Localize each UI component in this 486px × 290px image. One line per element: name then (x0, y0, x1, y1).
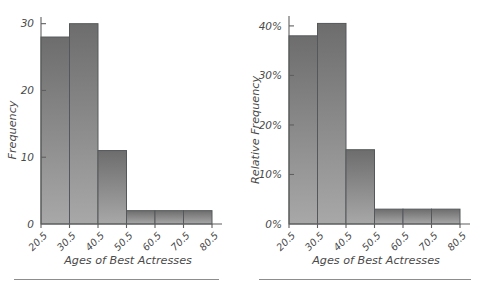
y-tick-label: 30 (21, 17, 35, 29)
y-tick-label: 10 (21, 151, 35, 163)
x-tick-label: 40.5 (331, 230, 354, 253)
bar-group (41, 24, 212, 224)
frequency-histogram-panel: 0102030 20.530.540.550.560.570.580.5 Fre… (0, 0, 243, 290)
y-tick-label: 0 (27, 218, 34, 230)
histogram-bar (184, 211, 213, 224)
x-tick-label: 60.5 (140, 230, 163, 253)
histogram-bar (375, 209, 404, 224)
footer-rule-left (14, 279, 219, 280)
frequency-histogram-plot: 0102030 20.530.540.550.560.570.580.5 Fre… (0, 0, 243, 275)
y-tick-label: 30% (259, 69, 282, 81)
x-tick-label: 40.5 (83, 230, 106, 253)
histogram-bar (318, 23, 347, 224)
histogram-bar (289, 36, 318, 224)
histogram-bar (98, 151, 127, 224)
y-tick-label: 20 (21, 84, 35, 96)
y-tick-label: 10% (259, 168, 282, 180)
x-tick-label-group: 20.530.540.550.560.570.580.5 (274, 230, 468, 253)
x-tick-label: 30.5 (55, 230, 78, 253)
x-tick-label: 60.5 (388, 230, 411, 253)
x-tick-label: 80.5 (445, 230, 468, 253)
histogram-bar (346, 150, 375, 224)
histogram-bar (127, 211, 156, 224)
y-axis-title: Relative Frequency (249, 76, 262, 184)
y-tick-label-group: 0%10%20%30%40% (259, 20, 282, 230)
y-axis-title: Frequency (6, 100, 19, 159)
histogram-bar (41, 37, 70, 224)
x-tick-label: 50.5 (112, 230, 135, 253)
footer-rule-right (259, 279, 471, 280)
y-tick-label-group: 0102030 (21, 17, 35, 229)
histogram-bar (70, 24, 99, 224)
x-axis-title: Ages of Best Actresses (63, 254, 192, 267)
bar-group (289, 23, 460, 224)
x-tick-label-group: 20.530.540.550.560.570.580.5 (26, 230, 220, 253)
x-tick-label: 20.5 (26, 230, 49, 253)
x-tick-label: 20.5 (274, 230, 297, 253)
x-tick-label: 70.5 (169, 230, 192, 253)
relative-frequency-histogram-plot: 0%10%20%30%40% 20.530.540.550.560.570.58… (243, 0, 486, 275)
x-tick-label: 70.5 (417, 230, 440, 253)
histogram-bar (432, 209, 461, 224)
x-axis-title: Ages of Best Actresses (311, 254, 440, 267)
relative-frequency-histogram-panel: 0%10%20%30%40% 20.530.540.550.560.570.58… (243, 0, 486, 290)
y-tick-label: 20% (259, 119, 282, 131)
y-tick-label: 0% (265, 218, 282, 230)
histogram-bar (155, 211, 184, 224)
x-tick-label: 50.5 (360, 230, 383, 253)
x-tick-label: 30.5 (303, 230, 326, 253)
histogram-bar (403, 209, 432, 224)
x-tick-label: 80.5 (197, 230, 220, 253)
y-tick-label: 40% (259, 20, 282, 32)
